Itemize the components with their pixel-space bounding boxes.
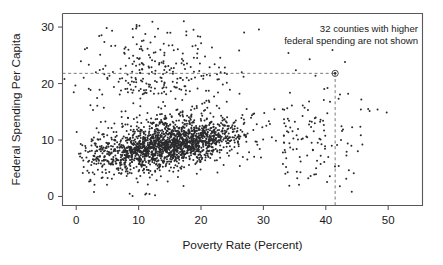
x-tick-label: 30 bbox=[257, 214, 270, 226]
annotation-line-1: 32 counties with higher bbox=[320, 23, 419, 34]
x-tick-label: 50 bbox=[382, 214, 395, 226]
chart-canvas: 01020304050 0102030 Poverty Rate (Percen… bbox=[0, 0, 443, 265]
x-tick-label: 40 bbox=[319, 214, 332, 226]
y-tick-label: 0 bbox=[48, 190, 54, 202]
scatter-plot-figure: 01020304050 0102030 Poverty Rate (Percen… bbox=[0, 0, 443, 265]
x-tick-label: 10 bbox=[132, 214, 145, 226]
y-tick-label: 30 bbox=[41, 21, 54, 33]
x-tick-label: 20 bbox=[195, 214, 208, 226]
x-tick-label: 0 bbox=[73, 214, 79, 226]
y-axis-title: Federal Spending Per Capita bbox=[9, 33, 23, 186]
y-tick-label: 10 bbox=[41, 134, 54, 146]
x-axis-title: Poverty Rate (Percent) bbox=[183, 238, 303, 252]
y-tick-label: 20 bbox=[41, 78, 54, 90]
annotation-line-2: federal spending are not shown bbox=[284, 35, 418, 46]
